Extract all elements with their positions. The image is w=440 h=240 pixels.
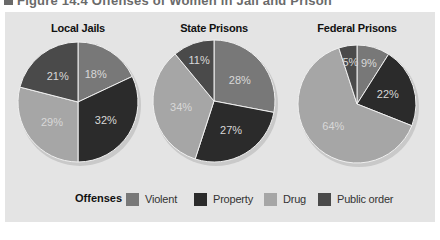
pie-slice-label: 32% (95, 114, 117, 126)
pie-slice-label: 5% (342, 56, 358, 68)
legend-item-drug: Drug (264, 189, 306, 209)
legend-label-drug: Drug (283, 193, 306, 205)
legend-label-violent: Violent (145, 193, 177, 205)
legend-title: Offenses (75, 192, 122, 204)
pie-federal-prisons: 9%22%64%5% (298, 45, 419, 167)
pie-slice-label: 21% (47, 70, 69, 82)
pie-state-prisons: 28%27%34%11% (153, 40, 278, 166)
pie-slice-label: 9% (361, 57, 377, 69)
legend-swatch-drug (264, 193, 277, 206)
legend: Offenses Violent Property Drug Public or… (0, 189, 440, 209)
legend-swatch-violent (126, 193, 139, 206)
pie-slice-label: 18% (85, 68, 107, 80)
pie-slice-label: 22% (377, 88, 399, 100)
legend-swatch-public-order (318, 193, 331, 206)
legend-label-public-order: Public order (337, 193, 393, 205)
pie-local-jails: 18%32%29%21% (18, 42, 141, 166)
pie-slice-label: 64% (322, 120, 344, 132)
legend-item-public-order: Public order (318, 189, 393, 209)
pie-slice-label: 11% (189, 54, 210, 66)
legend-swatch-property (194, 193, 207, 206)
pie-slice-label: 34% (170, 101, 192, 113)
legend-label-property: Property (213, 193, 253, 205)
legend-item-violent: Violent (126, 189, 177, 209)
pie-slice-label: 27% (220, 124, 242, 136)
pie-slice-label: 28% (229, 74, 251, 86)
legend-item-property: Property (194, 189, 253, 209)
pie-slice-label: 29% (41, 116, 63, 128)
